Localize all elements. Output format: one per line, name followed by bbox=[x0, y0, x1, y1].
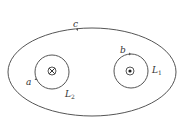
label-b: b bbox=[120, 45, 126, 55]
left-loop-a bbox=[35, 55, 69, 89]
label-L1: L1 bbox=[151, 65, 162, 76]
label-a: a bbox=[26, 77, 31, 87]
arrow-b-icon bbox=[129, 53, 131, 56]
diagram-canvas: c a L2 b L1 bbox=[0, 0, 180, 127]
outer-loop-c bbox=[8, 28, 176, 116]
label-c: c bbox=[73, 19, 78, 29]
dot-center bbox=[128, 69, 131, 72]
label-L2: L2 bbox=[64, 89, 75, 100]
